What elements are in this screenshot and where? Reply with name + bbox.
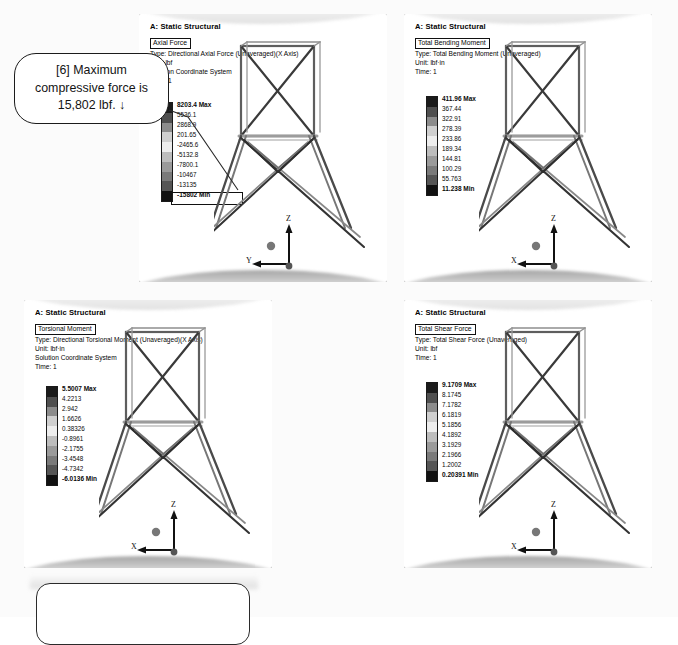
result-name-box[interactable]: Total Shear Force [415, 324, 476, 335]
legend-value: -6.0136 Min [62, 476, 97, 486]
analysis-title: A: Static Structural [415, 22, 541, 31]
legend-color-swatch [162, 142, 172, 152]
legend-color-swatch [162, 123, 172, 133]
legend-labels: 8203.4 Max5536.12868.9201.65-2465.6-5132… [177, 102, 211, 202]
truss-model-view[interactable]: Z X [479, 32, 649, 277]
legend-color-swatch [427, 185, 437, 195]
legend-color-swatch [427, 156, 437, 166]
analysis-title: A: Static Structural [150, 22, 298, 31]
legend-color-swatch [427, 146, 437, 156]
legend-color-swatch [427, 422, 437, 432]
result-name-box[interactable]: Axial Force [150, 38, 191, 49]
callout-line-3: 15,802 lbf. ↓ [58, 98, 126, 112]
legend-color-swatch [427, 175, 437, 185]
annotation-callout: [6] Maximum compressive force is 15,802 … [14, 53, 169, 124]
callout-line-1: [6] Maximum [56, 63, 127, 77]
legend-color-swatch [427, 166, 437, 176]
legend-color-swatch [427, 393, 437, 403]
callout-line-2: compressive force is [35, 81, 148, 95]
legend-color-swatch [47, 456, 57, 466]
legend-color-swatch [47, 465, 57, 475]
legend-color-swatch [162, 162, 172, 172]
legend-color-swatch [47, 446, 57, 456]
result-panel-total-bending-moment: A: Static Structural Total Bending Momen… [404, 14, 652, 282]
legend-color-swatch [162, 181, 172, 191]
result-panel-axial-force: A: Static Structural Axial Force Type: D… [139, 14, 387, 282]
color-legend: 411.96 Max367.44322.91278.39233.86189.34… [426, 96, 476, 196]
svg-text:X: X [131, 542, 137, 551]
legend-color-swatch [47, 475, 57, 485]
color-legend: 5.5007 Max4.22132.9421.66260.38326-0.896… [46, 386, 97, 486]
result-panel-torsional-moment: A: Static Structural Torsional Moment Ty… [24, 300, 272, 568]
legend-color-swatch [427, 126, 437, 136]
legend-color-swatch [427, 383, 437, 393]
legend-value: 0.20391 Min [442, 472, 479, 482]
truss-model-view[interactable]: Z X [479, 318, 649, 563]
legend-color-swatch [427, 136, 437, 146]
axis-triad: Z X [511, 500, 558, 555]
legend-color-swatch [427, 461, 437, 471]
truss-model-view[interactable]: Z X [99, 318, 269, 563]
color-legend: 8203.4 Max5536.12868.9201.65-2465.6-5132… [161, 102, 211, 202]
legend-value: -15802 Min [177, 192, 211, 202]
svg-text:Z: Z [286, 214, 291, 223]
legend-color-swatch [162, 132, 172, 142]
truss-model-view[interactable]: Z Y [214, 32, 384, 277]
axis-triad: Z Y [246, 214, 293, 269]
axis-triad: Z X [131, 500, 178, 555]
legend-labels: 5.5007 Max4.22132.9421.66260.38326-0.896… [62, 386, 97, 486]
legend-color-bar [46, 386, 58, 486]
legend-color-swatch [427, 452, 437, 462]
legend-value: 11.238 Min [442, 186, 476, 196]
svg-text:Y: Y [246, 256, 252, 265]
legend-color-swatch [47, 436, 57, 446]
legend-color-swatch [47, 397, 57, 407]
legend-color-swatch [427, 117, 437, 127]
svg-text:Z: Z [551, 214, 556, 223]
legend-color-swatch [47, 407, 57, 417]
svg-text:Z: Z [171, 500, 176, 509]
legend-color-swatch [162, 152, 172, 162]
legend-color-swatch [162, 191, 172, 201]
legend-labels: 9.1709 Max8.17457.17826.18195.18564.1892… [442, 382, 479, 482]
legend-color-swatch [162, 172, 172, 182]
legend-color-swatch [427, 412, 437, 422]
legend-color-bar [426, 96, 438, 196]
legend-color-swatch [427, 107, 437, 117]
bottom-annotation-box [36, 583, 250, 645]
result-name-box[interactable]: Torsional Moment [35, 324, 96, 335]
legend-color-bar [426, 382, 438, 482]
legend-color-swatch [47, 387, 57, 397]
svg-text:X: X [511, 542, 517, 551]
result-panel-total-shear-force: A: Static Structural Total Shear Force T… [404, 300, 652, 568]
axis-triad: Z X [511, 214, 558, 269]
color-legend: 9.1709 Max8.17457.17826.18195.18564.1892… [426, 382, 479, 482]
analysis-title: A: Static Structural [415, 308, 527, 317]
svg-text:X: X [511, 256, 517, 265]
legend-color-swatch [427, 432, 437, 442]
legend-color-swatch [427, 442, 437, 452]
legend-color-swatch [427, 403, 437, 413]
legend-color-swatch [47, 426, 57, 436]
analysis-title: A: Static Structural [35, 308, 203, 317]
legend-color-swatch [47, 416, 57, 426]
legend-labels: 411.96 Max367.44322.91278.39233.86189.34… [442, 96, 476, 196]
legend-color-swatch [427, 97, 437, 107]
legend-color-swatch [427, 471, 437, 481]
svg-text:Z: Z [551, 500, 556, 509]
